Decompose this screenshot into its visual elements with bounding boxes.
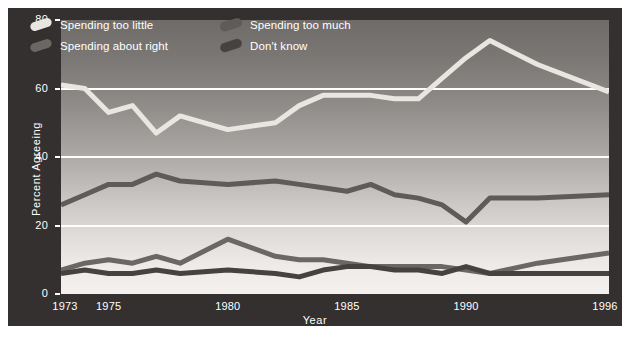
legend-swatch-icon-3 — [219, 38, 243, 53]
legend-label-2: Spending about right — [60, 40, 168, 52]
plot-area — [61, 20, 609, 294]
x-tick-label-1980: 1980 — [206, 300, 250, 312]
legend-label-1: Spending too much — [250, 19, 351, 31]
x-tick-label-1973: 1973 — [43, 300, 87, 312]
legend-item-2: Spending about right — [30, 40, 220, 52]
legend-item-3: Don't know — [220, 40, 420, 52]
y-axis-title: Percent Agreeing — [30, 122, 42, 216]
y-tick-mark-40 — [55, 156, 60, 158]
legend-swatch-icon-2 — [29, 38, 53, 53]
series-lines — [61, 20, 609, 294]
legend-item-0: Spending too little — [30, 19, 220, 31]
y-tick-mark-60 — [55, 88, 60, 90]
legend-item-1: Spending too much — [220, 19, 420, 31]
x-tick-label-1975: 1975 — [87, 300, 131, 312]
legend-label-3: Don't know — [250, 40, 308, 52]
x-tick-label-1990: 1990 — [444, 300, 488, 312]
x-tick-label-1996: 1996 — [583, 300, 627, 312]
y-tick-label-0: 0 — [22, 287, 48, 299]
x-axis-title: Year — [8, 314, 622, 326]
series-line-3 — [61, 267, 609, 277]
y-tick-label-20: 20 — [22, 219, 48, 231]
y-tick-mark-0 — [55, 293, 60, 295]
x-tick-label-1985: 1985 — [325, 300, 369, 312]
chart-frame: 020406080 Percent Agreeing Spending too … — [8, 8, 622, 326]
chart-legend: Spending too littleSpending too muchSpen… — [30, 14, 470, 56]
legend-swatch-icon-1 — [219, 17, 243, 32]
y-tick-label-60: 60 — [22, 82, 48, 94]
legend-swatch-icon-0 — [29, 17, 53, 32]
series-line-1 — [61, 174, 609, 222]
y-tick-mark-20 — [55, 225, 60, 227]
legend-label-0: Spending too little — [60, 19, 153, 31]
